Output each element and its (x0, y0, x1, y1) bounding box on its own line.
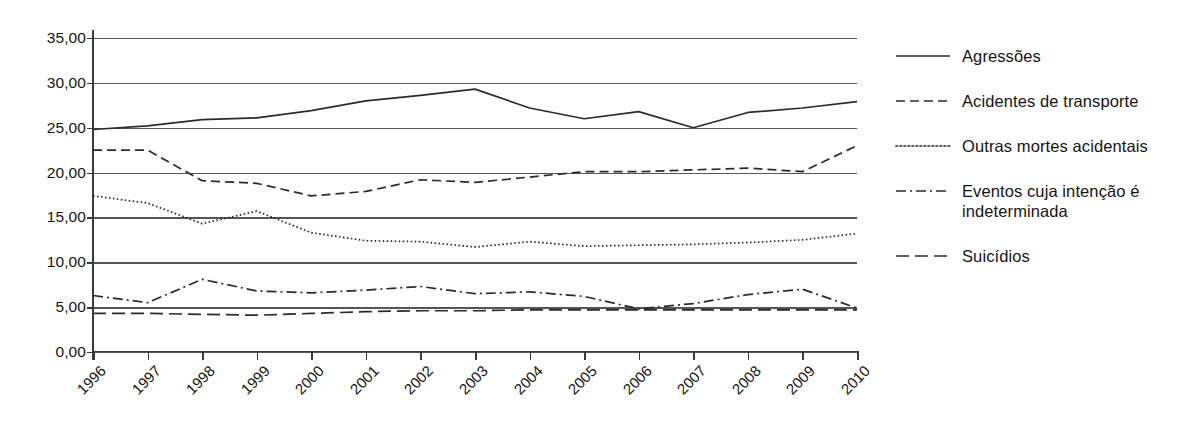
x-tick-mark (475, 352, 477, 360)
legend-item: Suicídios (896, 246, 1202, 266)
line-chart: 0,005,0010,0015,0020,0025,0030,0035,00 1… (0, 0, 1202, 430)
x-tick-mark (748, 352, 750, 360)
legend-item: Eventos cuja intenção é indeterminada (896, 181, 1202, 221)
y-tick-label: 25,00 (47, 119, 86, 137)
x-tick-label: 1999 (228, 362, 273, 407)
x-tick-label: 2000 (283, 362, 328, 407)
x-tick-mark (202, 352, 204, 360)
x-tick-label: 1997 (119, 362, 164, 407)
x-tick-label: 1998 (174, 362, 219, 407)
x-tick-label: 2007 (665, 362, 710, 407)
x-tick-label: 2003 (446, 362, 491, 407)
chart-legend: AgressõesAcidentes de transporteOutras m… (896, 46, 1202, 291)
y-tick-label: 15,00 (47, 208, 86, 226)
x-axis-ticks (93, 352, 857, 362)
x-tick-mark (802, 352, 804, 360)
x-tick-mark (366, 352, 368, 360)
y-axis-labels: 0,005,0010,0015,0020,0025,0030,0035,00 (0, 0, 86, 430)
legend-line-icon (896, 47, 950, 65)
legend-label: Eventos cuja intenção é indeterminada (962, 181, 1202, 221)
x-tick-mark (420, 352, 422, 360)
y-tick-label: 10,00 (47, 253, 86, 271)
x-tick-mark (311, 352, 313, 360)
x-tick-label: 2009 (774, 362, 819, 407)
x-tick-label: 2002 (392, 362, 437, 407)
y-tick-label: 35,00 (47, 29, 86, 47)
y-tick-label: 5,00 (55, 298, 86, 316)
legend-line-icon (896, 92, 950, 110)
legend-item: Outras mortes acidentais (896, 136, 1202, 156)
y-tick-label: 30,00 (47, 74, 86, 92)
x-tick-label: 2010 (828, 362, 873, 407)
legend-label: Suicídios (962, 246, 1030, 266)
series-line (93, 279, 857, 309)
x-tick-mark (148, 352, 150, 360)
series-lines (93, 38, 857, 352)
legend-line-icon (896, 182, 950, 200)
x-tick-mark (93, 352, 95, 360)
x-tick-label: 2001 (337, 362, 382, 407)
y-tick-label: 0,00 (55, 343, 86, 361)
plot-area (93, 38, 857, 352)
legend-line-icon (896, 137, 950, 155)
x-tick-label: 2006 (610, 362, 655, 407)
series-line (93, 196, 857, 247)
x-tick-mark (639, 352, 641, 360)
x-tick-mark (693, 352, 695, 360)
x-tick-mark (584, 352, 586, 360)
legend-label: Outras mortes acidentais (962, 136, 1148, 156)
legend-label: Agressões (962, 46, 1041, 66)
legend-line-icon (896, 247, 950, 265)
legend-label: Acidentes de transporte (962, 91, 1139, 111)
series-line (93, 310, 857, 315)
x-tick-label: 2004 (501, 362, 546, 407)
x-tick-mark (530, 352, 532, 360)
legend-item: Acidentes de transporte (896, 91, 1202, 111)
x-tick-label: 2008 (719, 362, 764, 407)
legend-item: Agressões (896, 46, 1202, 66)
series-line (93, 146, 857, 196)
series-line (93, 89, 857, 129)
y-tick-label: 20,00 (47, 164, 86, 182)
x-tick-mark (257, 352, 259, 360)
x-tick-mark (857, 352, 859, 360)
x-tick-label: 2005 (556, 362, 601, 407)
